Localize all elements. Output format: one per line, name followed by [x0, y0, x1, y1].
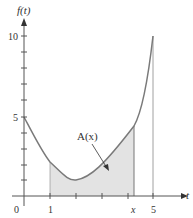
area-pointer-line — [92, 144, 107, 168]
y-tick-label-10: 10 — [8, 31, 18, 42]
y-tick-label-5: 5 — [13, 112, 18, 123]
area-label: A(x) — [77, 130, 98, 143]
x-tick-label-1: 1 — [48, 204, 53, 215]
y-axis-arrow-icon — [21, 18, 27, 26]
x-tick-label-x: x — [130, 204, 136, 215]
origin-label: 0 — [14, 204, 19, 215]
y-axis-label: f(t) — [17, 4, 31, 17]
x-tick-label-5: 5 — [151, 204, 156, 215]
x-axis-label: t — [186, 189, 190, 201]
chart: f(t) t 0 1 x 5 5 10 A(x) — [0, 0, 193, 218]
